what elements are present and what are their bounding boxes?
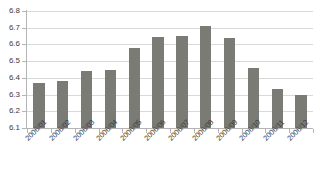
bar: [176, 36, 187, 128]
x-tick-mark: [194, 129, 195, 133]
x-tick-mark: [289, 129, 290, 133]
bar: [129, 48, 140, 128]
y-tick-label: 6.6: [0, 40, 20, 48]
x-tick-mark: [75, 129, 76, 133]
bar: [224, 38, 235, 128]
bar: [200, 26, 211, 128]
bar: [57, 81, 68, 128]
x-tick-mark: [27, 129, 28, 133]
x-axis-line: [26, 128, 313, 129]
x-tick-mark: [218, 129, 219, 133]
x-tick-mark: [122, 129, 123, 133]
x-tick-mark: [51, 129, 52, 133]
bar: [33, 83, 44, 128]
x-tick-mark: [99, 129, 100, 133]
y-tick-label: 6.5: [0, 57, 20, 65]
bar: [295, 95, 306, 128]
x-tick-mark: [170, 129, 171, 133]
bar: [81, 71, 92, 128]
y-tick-label: 6.8: [0, 7, 20, 15]
x-tick-mark: [313, 129, 314, 133]
plot-area: [27, 11, 313, 128]
y-tick-label: 6.1: [0, 124, 20, 132]
x-tick-mark: [242, 129, 243, 133]
bar: [152, 37, 163, 128]
bar: [105, 70, 116, 129]
y-tick-label: 6.2: [0, 107, 20, 115]
y-tick-label: 6.4: [0, 74, 20, 82]
x-tick-mark: [265, 129, 266, 133]
bars-layer: [27, 11, 313, 128]
bar: [248, 68, 259, 128]
y-tick-label: 6.3: [0, 91, 20, 99]
x-tick-mark: [146, 129, 147, 133]
bar: [272, 89, 283, 128]
y-tick-label: 6.7: [0, 24, 20, 32]
bar-chart: 6.86.76.66.56.46.36.26.1 2006/012006/022…: [0, 0, 317, 182]
